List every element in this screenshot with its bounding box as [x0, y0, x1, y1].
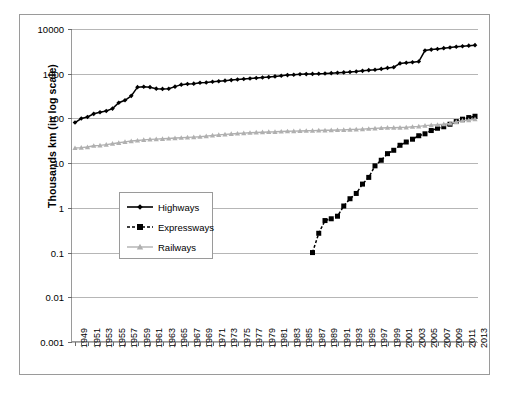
- x-tick-mark: [256, 342, 257, 346]
- x-tick-mark: [369, 342, 370, 346]
- legend-label: Highways: [158, 202, 199, 213]
- x-tick-mark: [163, 342, 164, 346]
- x-tick-mark: [456, 342, 457, 346]
- x-tick-mark: [119, 342, 120, 346]
- legend-label: Railways: [158, 242, 196, 253]
- y-tick-label: 10: [53, 158, 64, 169]
- legend-item-highways[interactable]: Highways: [125, 199, 199, 215]
- x-tick-mark: [88, 342, 89, 346]
- x-tick-mark: [263, 342, 264, 346]
- x-tick-mark: [356, 342, 357, 346]
- x-tick-mark: [306, 342, 307, 346]
- y-tick-mark: [68, 342, 72, 343]
- x-tick-mark: [175, 342, 176, 346]
- plot-area: 1949195119531955195719591961196319651967…: [71, 29, 477, 342]
- x-tick-mark: [75, 342, 76, 346]
- x-tick-mark: [238, 342, 239, 346]
- x-tick-mark: [288, 342, 289, 346]
- series-layer: [72, 29, 478, 342]
- legend-item-railways[interactable]: Railways: [125, 239, 196, 255]
- x-tick-mark: [156, 342, 157, 346]
- x-tick-mark: [444, 342, 445, 346]
- x-tick-mark: [269, 342, 270, 346]
- x-tick-mark: [338, 342, 339, 346]
- x-tick-mark: [206, 342, 207, 346]
- plot-wrapper: 1949195119531955195719591961196319651967…: [0, 0, 508, 393]
- x-tick-mark: [106, 342, 107, 346]
- x-tick-mark: [231, 342, 232, 346]
- x-tick-mark: [281, 342, 282, 346]
- legend-square-icon: [125, 221, 155, 233]
- x-tick-mark: [350, 342, 351, 346]
- chart-figure: Thousands km (in log scale) 194919511953…: [0, 0, 508, 393]
- x-tick-mark: [113, 342, 114, 346]
- y-tick-label: 10000: [38, 24, 64, 35]
- y-tick-label: 1: [59, 202, 64, 213]
- x-tick-mark: [469, 342, 470, 346]
- y-tick-label: 100: [48, 113, 64, 124]
- x-tick-mark: [394, 342, 395, 346]
- x-tick-mark: [100, 342, 101, 346]
- x-tick-mark: [169, 342, 170, 346]
- chart-legend: HighwaysExpresswaysRailways: [119, 192, 213, 259]
- x-tick-mark: [244, 342, 245, 346]
- x-tick-mark: [331, 342, 332, 346]
- x-tick-mark: [344, 342, 345, 346]
- x-tick-mark: [400, 342, 401, 346]
- x-tick-mark: [475, 342, 476, 346]
- series-expressways: [310, 114, 478, 255]
- x-tick-mark: [300, 342, 301, 346]
- x-tick-mark: [425, 342, 426, 346]
- x-tick-mark: [144, 342, 145, 346]
- legend-triangle-icon: [125, 241, 155, 253]
- x-tick-mark: [431, 342, 432, 346]
- x-tick-mark: [138, 342, 139, 346]
- x-tick-mark: [406, 342, 407, 346]
- x-tick-mark: [131, 342, 132, 346]
- x-tick-mark: [275, 342, 276, 346]
- x-tick-mark: [150, 342, 151, 346]
- x-tick-mark: [363, 342, 364, 346]
- x-tick-mark: [94, 342, 95, 346]
- x-tick-mark: [450, 342, 451, 346]
- x-tick-mark: [250, 342, 251, 346]
- x-tick-mark: [319, 342, 320, 346]
- x-tick-mark: [325, 342, 326, 346]
- x-tick-mark: [125, 342, 126, 346]
- x-tick-mark: [188, 342, 189, 346]
- x-tick-mark: [200, 342, 201, 346]
- series-highways: [73, 43, 478, 125]
- x-tick-mark: [463, 342, 464, 346]
- x-tick-mark: [388, 342, 389, 346]
- x-tick-mark: [375, 342, 376, 346]
- x-tick-mark: [181, 342, 182, 346]
- x-tick-mark: [81, 342, 82, 346]
- x-tick-mark: [294, 342, 295, 346]
- x-tick-mark: [225, 342, 226, 346]
- x-tick-mark: [219, 342, 220, 346]
- legend-item-expressways[interactable]: Expressways: [125, 219, 214, 235]
- x-tick-mark: [419, 342, 420, 346]
- x-tick-mark: [194, 342, 195, 346]
- y-tick-label: 0.01: [46, 292, 65, 303]
- x-tick-mark: [438, 342, 439, 346]
- x-tick-mark: [313, 342, 314, 346]
- legend-label: Expressways: [158, 222, 214, 233]
- y-tick-label: 1000: [43, 68, 64, 79]
- x-tick-label: 2013: [479, 328, 489, 348]
- x-tick-mark: [213, 342, 214, 346]
- y-tick-label: 0.001: [40, 337, 64, 348]
- x-tick-mark: [413, 342, 414, 346]
- legend-diamond-icon: [125, 201, 155, 213]
- y-tick-label: 0.1: [51, 247, 64, 258]
- x-tick-mark: [381, 342, 382, 346]
